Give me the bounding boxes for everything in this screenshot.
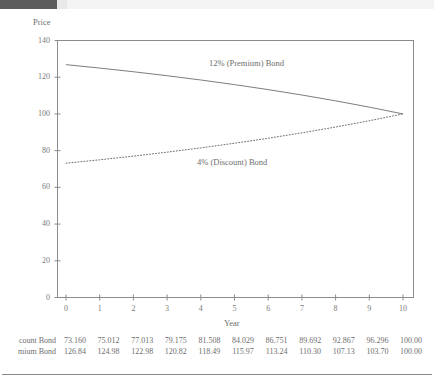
y-tick-label: 80 — [26, 146, 50, 155]
x-tick-label: 7 — [294, 304, 310, 313]
table-row-label: mium Bond — [0, 347, 56, 356]
table-cell: 73.160 — [58, 336, 92, 345]
data-table: count Bond73.16075.01277.01379.17581.508… — [0, 336, 434, 358]
table-cell: 79.175 — [159, 336, 193, 345]
footer-rule — [2, 374, 432, 375]
table-cell: 107.13 — [327, 347, 361, 356]
x-tick-label: 2 — [125, 304, 141, 313]
y-tick-label: 60 — [26, 182, 50, 191]
table-cell: 77.013 — [125, 336, 159, 345]
table-cell: 86.751 — [260, 336, 294, 345]
x-tick-label: 6 — [260, 304, 276, 313]
x-axis-title: Year — [224, 318, 240, 328]
y-tick-label: 0 — [26, 293, 50, 302]
table-row-label: count Bond — [0, 336, 56, 345]
plot-frame — [58, 41, 414, 298]
series-annotation-discount-bond: 4% (Discount) Bond — [197, 157, 267, 167]
table-row: mium Bond126.84124.98122.98120.82118.491… — [0, 347, 434, 358]
table-cell: 115.97 — [226, 347, 260, 356]
x-tick-label: 10 — [395, 304, 411, 313]
table-cell: 89.692 — [293, 336, 327, 345]
table-cell: 113.24 — [260, 347, 294, 356]
table-cell: 126.84 — [58, 347, 92, 356]
table-cell: 75.012 — [92, 336, 126, 345]
y-tick-label: 40 — [26, 219, 50, 228]
table-cell: 84.029 — [226, 336, 260, 345]
y-tick-label: 120 — [26, 72, 50, 81]
bond-price-chart-figure: Price Year 020406080100120140 0123456789… — [0, 0, 434, 387]
x-tick-label: 3 — [159, 304, 175, 313]
table-cell: 103.70 — [360, 347, 394, 356]
table-cell: 96.296 — [360, 336, 394, 345]
table-cell: 122.98 — [125, 347, 159, 356]
x-tick-label: 5 — [227, 304, 243, 313]
table-cell: 92.867 — [327, 336, 361, 345]
x-tick-label: 4 — [193, 304, 209, 313]
table-cell: 118.49 — [192, 347, 226, 356]
x-tick-label: 0 — [58, 304, 74, 313]
table-cell: 100.00 — [394, 336, 428, 345]
y-axis-title: Price — [33, 17, 50, 27]
x-tick-label: 9 — [361, 304, 377, 313]
x-tick-label: 1 — [92, 304, 108, 313]
table-cell: 110.30 — [293, 347, 327, 356]
series-line-premium-bond — [66, 65, 403, 114]
x-tick-label: 8 — [328, 304, 344, 313]
y-tick-label: 140 — [26, 36, 50, 45]
y-tick-label: 100 — [26, 109, 50, 118]
series-line-discount-bond — [66, 114, 403, 163]
series-annotation-premium-bond: 12% (Premium) Bond — [209, 58, 284, 68]
table-cell: 81.508 — [192, 336, 226, 345]
table-cell: 120.82 — [159, 347, 193, 356]
table-cell: 124.98 — [92, 347, 126, 356]
table-row: count Bond73.16075.01277.01379.17581.508… — [0, 336, 434, 347]
table-cell: 100.00 — [394, 347, 428, 356]
y-tick-label: 20 — [26, 256, 50, 265]
